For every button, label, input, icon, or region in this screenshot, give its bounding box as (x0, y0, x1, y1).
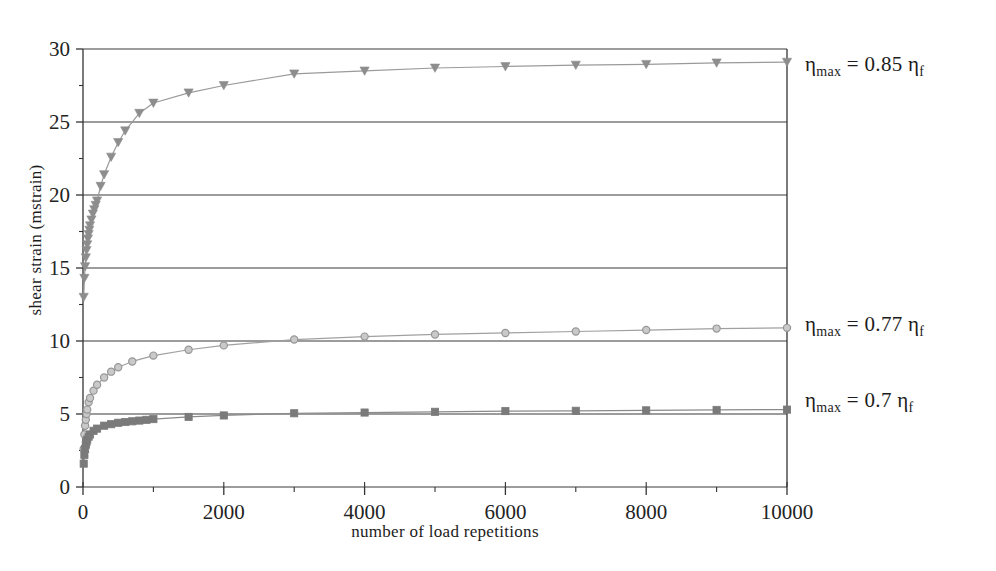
y-tick-label-10: 10 (49, 329, 70, 353)
data-point (643, 326, 650, 333)
data-point (184, 89, 193, 97)
series-0 (79, 58, 791, 301)
eta-f-subscript: f (919, 64, 924, 79)
series-2 (80, 406, 790, 467)
x-tick-label-2000: 2000 (203, 500, 245, 524)
eta-f-subscript: f (919, 324, 924, 339)
data-point (115, 364, 122, 371)
data-point (115, 419, 122, 426)
data-point (502, 329, 509, 336)
data-point (361, 333, 368, 340)
series-annotation-bottom: ηmax = 0.7 ηf (805, 388, 914, 416)
y-tick-label-30: 30 (49, 37, 70, 61)
data-point (101, 422, 108, 429)
chart-figure: 0510152025300200040006000800010000 shear… (0, 0, 996, 571)
data-point (783, 406, 790, 413)
data-point (150, 352, 157, 359)
x-tick-label-0: 0 (78, 500, 89, 524)
data-point (129, 358, 136, 365)
data-point (783, 324, 790, 331)
data-point (431, 331, 438, 338)
data-point (149, 99, 158, 107)
data-point (108, 368, 115, 375)
data-point (96, 182, 105, 190)
eta-symbol: η (805, 52, 816, 76)
grid-layer (83, 49, 787, 487)
x-axis-title-text: number of load repetitions (351, 522, 539, 541)
data-point (122, 418, 129, 425)
eta-symbol: η (805, 388, 816, 412)
x-axis-title: number of load repetitions (300, 522, 590, 542)
data-point (84, 406, 91, 413)
series-layer (79, 58, 791, 467)
series-annotation-top: ηmax = 0.85 ηf (805, 52, 924, 80)
tick-label-layer: 0510152025300200040006000800010000 (49, 37, 813, 524)
eta-symbol: η (805, 312, 816, 336)
data-point (572, 407, 579, 414)
y-tick-label-0: 0 (60, 475, 71, 499)
data-point (291, 336, 298, 343)
axis-layer (76, 49, 787, 495)
data-point (185, 413, 192, 420)
y-tick-label-25: 25 (49, 110, 70, 134)
data-point (643, 407, 650, 414)
data-point (143, 416, 150, 423)
data-point (431, 408, 438, 415)
data-point (129, 418, 136, 425)
data-point (502, 407, 509, 414)
data-point (220, 342, 227, 349)
data-point (713, 325, 720, 332)
data-point (220, 412, 227, 419)
data-point (114, 139, 123, 147)
data-point (150, 416, 157, 423)
series-1 (80, 324, 790, 452)
data-point (86, 394, 93, 401)
series-line-0 (84, 62, 787, 297)
eta-max-subscript: max (816, 324, 841, 339)
data-point (572, 328, 579, 335)
series-markers-0 (79, 58, 791, 301)
data-point (136, 417, 143, 424)
data-point (93, 425, 100, 432)
x-tick-label-6000: 6000 (484, 500, 526, 524)
eta-f-subscript: f (909, 400, 914, 415)
y-tick-label-15: 15 (49, 256, 70, 280)
data-point (291, 410, 298, 417)
eta-symbol-2: η (897, 388, 908, 412)
data-point (101, 374, 108, 381)
equals-value: = 0.85 (841, 52, 908, 76)
y-tick-label-5: 5 (60, 402, 71, 426)
data-point (79, 293, 88, 301)
y-axis-title-text: shear strain (mstrain) (26, 164, 45, 315)
eta-max-subscript: max (816, 400, 841, 415)
data-point (121, 127, 130, 135)
chart-plot-area: 0510152025300200040006000800010000 (0, 0, 996, 571)
equals-value: = 0.7 (841, 388, 897, 412)
data-point (93, 381, 100, 388)
data-point (107, 153, 116, 161)
x-tick-label-8000: 8000 (625, 500, 667, 524)
data-point (361, 409, 368, 416)
y-tick-label-20: 20 (49, 183, 70, 207)
x-tick-label-10000: 10000 (761, 500, 814, 524)
data-point (713, 406, 720, 413)
y-axis-title: shear strain (mstrain) (26, 120, 46, 360)
series-markers-1 (80, 324, 790, 452)
series-annotation-middle: ηmax = 0.77 ηf (805, 312, 924, 340)
data-point (80, 274, 89, 282)
equals-value: = 0.77 (841, 312, 908, 336)
eta-symbol-2: η (908, 52, 919, 76)
eta-max-subscript: max (816, 64, 841, 79)
data-point (80, 460, 87, 467)
x-tick-label-4000: 4000 (344, 500, 386, 524)
series-markers-2 (80, 406, 790, 467)
data-point (100, 171, 109, 179)
data-point (81, 263, 90, 271)
eta-symbol-2: η (908, 312, 919, 336)
data-point (108, 421, 115, 428)
data-point (185, 346, 192, 353)
